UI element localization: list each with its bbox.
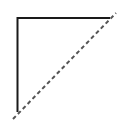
roc-curve-chart	[0, 0, 122, 120]
plot-area	[0, 0, 122, 120]
chance-diagonal-line	[13, 13, 116, 119]
